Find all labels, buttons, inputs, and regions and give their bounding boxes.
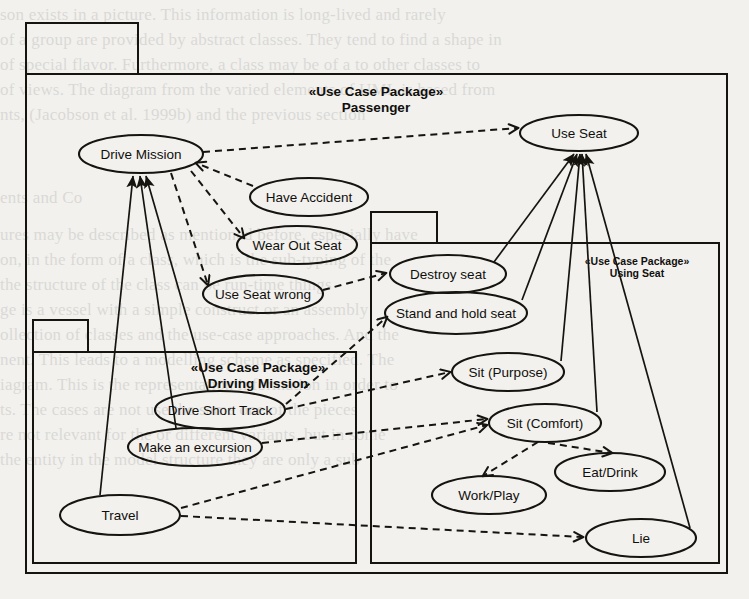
generalization-sit-comfort-to-use-seat xyxy=(582,154,597,412)
use-case-diagram: «Use Case Package»Passenger«Use Case Pac… xyxy=(0,0,749,599)
dependency-drive-mission-to-wear-out-seat xyxy=(191,171,244,238)
use-case-lie[interactable]: Lie xyxy=(586,519,696,557)
use-case-wear-out-seat[interactable]: Wear Out Seat xyxy=(237,226,357,264)
use-case-label: Work/Play xyxy=(458,488,520,503)
use-case-eat-drink[interactable]: Eat/Drink xyxy=(555,453,665,491)
package-name: Passenger xyxy=(342,100,411,115)
package-tab xyxy=(371,212,437,243)
package-stereotype: «Use Case Package» xyxy=(309,84,443,99)
dependency-travel-to-lie xyxy=(181,516,583,537)
dependency-drive-short-track-to-sit-purpose xyxy=(286,372,450,409)
use-case-stand-and-hold-seat[interactable]: Stand and hold seat xyxy=(385,292,527,334)
package-using-seat: «Use Case Package»Using Seat xyxy=(371,212,719,563)
use-case-destroy-seat[interactable]: Destroy seat xyxy=(390,255,506,293)
package-tab xyxy=(33,320,88,352)
generalization-destroy-seat-to-use-seat xyxy=(494,154,574,262)
dependency-have-accident-to-drive-mission xyxy=(196,163,253,186)
package-name: Driving Mission xyxy=(208,376,309,391)
dependency-travel-to-sit-comfort xyxy=(181,425,487,508)
dependency-use-seat-wrong-to-destroy-seat xyxy=(323,273,386,290)
use-case-label: Drive Mission xyxy=(100,147,181,162)
dependency-drive-mission-to-use-seat-wrong xyxy=(171,173,208,285)
use-case-label: Use Seat wrong xyxy=(215,287,311,302)
use-case-label: Destroy seat xyxy=(410,267,486,282)
use-case-make-an-excursion[interactable]: Make an excursion xyxy=(128,428,262,466)
package-stereotype: «Use Case Package» xyxy=(585,255,690,267)
dependency-make-an-excursion-to-sit-comfort xyxy=(262,419,487,443)
use-case-sit-comfort[interactable]: Sit (Comfort) xyxy=(489,404,601,442)
use-case-label: Travel xyxy=(101,508,138,523)
use-case-label: Stand and hold seat xyxy=(396,306,516,321)
use-case-label: Sit (Comfort) xyxy=(507,416,584,431)
use-case-use-seat[interactable]: Use Seat xyxy=(520,115,638,151)
use-case-label: Make an excursion xyxy=(138,440,251,455)
use-case-sit-purpose[interactable]: Sit (Purpose) xyxy=(452,353,564,391)
use-case-label: Eat/Drink xyxy=(582,465,638,480)
use-case-have-accident[interactable]: Have Accident xyxy=(250,178,368,216)
use-case-work-play[interactable]: Work/Play xyxy=(432,476,546,514)
generalization-make-an-excursion-to-drive-mission xyxy=(140,176,176,428)
use-case-use-seat-wrong[interactable]: Use Seat wrong xyxy=(203,275,323,313)
use-case-label: Drive Short Track xyxy=(168,403,273,418)
screenshot-page: son exists in a picture. This informatio… xyxy=(0,0,749,599)
use-case-label: Use Seat xyxy=(551,126,607,141)
use-case-drive-short-track[interactable]: Drive Short Track xyxy=(155,391,285,429)
use-case-label: Sit (Purpose) xyxy=(469,365,548,380)
use-case-drive-mission[interactable]: Drive Mission xyxy=(79,135,203,173)
use-case-label: Wear Out Seat xyxy=(252,238,341,253)
use-case-travel[interactable]: Travel xyxy=(60,495,180,535)
use-case-layer: Drive MissionUse SeatHave AccidentWear O… xyxy=(60,115,696,557)
dependency-drive-mission-to-use-seat xyxy=(203,128,518,152)
package-stereotype: «Use Case Package» xyxy=(191,360,325,375)
use-case-label: Lie xyxy=(632,531,650,546)
dependency-sit-comfort-to-work-play xyxy=(483,442,538,476)
package-tab xyxy=(26,23,138,74)
use-case-label: Have Accident xyxy=(266,190,353,205)
dependency-sit-comfort-to-eat-drink xyxy=(548,443,612,453)
generalization-sit-purpose-to-use-seat xyxy=(561,154,580,361)
dependency-layer xyxy=(171,128,612,537)
